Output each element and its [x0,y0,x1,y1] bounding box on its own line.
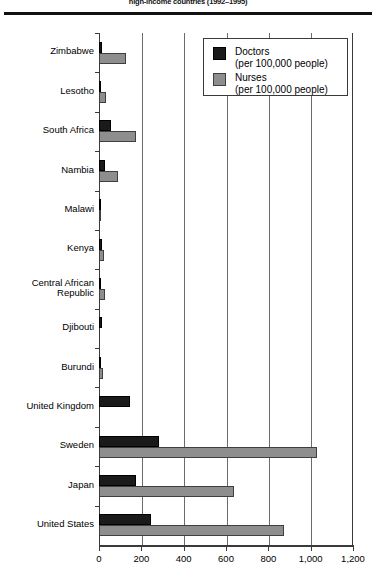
x-tick-0 [99,545,100,551]
gridline-200 [142,33,143,545]
category-label-lesotho: Lesotho [0,86,94,97]
y-tick-10 [95,427,99,428]
bar-doctors-zimbabwe [99,42,102,53]
legend: Doctors (per 100,000 people) Nurses (per… [203,38,348,96]
x-tick-label-200: 200 [133,553,149,564]
y-tick-2 [95,112,99,113]
bar-nurses-united-states [99,525,284,536]
y-tick-8 [95,348,99,349]
category-label-nambia: Nambia [0,165,94,176]
bar-doctors-nambia [99,160,105,171]
x-tick-800 [268,545,269,551]
x-tick-label-400: 400 [176,553,192,564]
y-tick-1 [95,72,99,73]
y-tick-5 [95,230,99,231]
legend-label-doctors: Doctors [235,46,269,57]
x-tick-200 [141,545,142,551]
bar-doctors-malawi [99,199,101,210]
category-label-south-africa: South Africa [0,125,94,136]
x-tick-1000 [311,545,312,551]
y-tick-6 [95,269,99,270]
bar-doctors-sweden [99,436,159,447]
legend-label-nurses: Nurses [235,72,267,83]
bar-nurses-nambia [99,171,118,182]
y-tick-0 [95,33,99,34]
gridline-1000 [311,33,312,545]
bar-nurses-sweden [99,447,317,458]
category-label-kenya: Kenya [0,243,94,254]
bar-nurses-lesotho [99,92,106,103]
category-label-zimbabwe: Zimbabwe [0,46,94,57]
plot-area [99,33,353,545]
gridline-800 [269,33,270,545]
category-label-japan: Japan [0,480,94,491]
bar-nurses-japan [99,486,234,497]
gridline-600 [227,33,228,545]
category-label-united-kingdom: United Kingdom [0,401,94,412]
x-tick-600 [226,545,227,551]
bar-nurses-central-african-republic [99,289,105,300]
x-tick-label-0: 0 [96,553,101,564]
bar-nurses-malawi [99,210,101,221]
bar-nurses-kenya [99,250,104,261]
bar-doctors-united-kingdom [99,396,130,407]
category-label-burundi: Burundi [0,362,94,373]
bar-doctors-lesotho [99,81,101,92]
legend-sublabel-doctors: (per 100,000 people) [235,58,328,69]
title-divider [4,12,372,15]
bar-doctors-south-africa [99,120,111,131]
bar-doctors-united-states [99,514,151,525]
bar-nurses-burundi [99,368,103,379]
health-workforce-bar-chart: high-income countries (1992–1995) 020040… [0,0,376,576]
gridline-400 [184,33,185,545]
y-tick-4 [95,191,99,192]
x-tick-400 [184,545,185,551]
x-tick-1200 [353,545,354,551]
y-tick-9 [95,387,99,388]
bar-doctors-japan [99,475,136,486]
bar-doctors-central-african-republic [99,278,101,289]
category-label-sweden: Sweden [0,440,94,451]
plot-right-border [352,33,354,545]
bar-doctors-burundi [99,357,101,368]
y-tick-3 [95,151,99,152]
x-tick-label-600: 600 [218,553,234,564]
y-tick-12 [95,506,99,507]
bar-doctors-kenya [99,239,102,250]
bar-doctors-djibouti [99,317,102,328]
legend-sublabel-nurses: (per 100,000 people) [235,84,328,95]
category-label-djibouti: Djibouti [0,322,94,333]
category-label-central-african-republic: Central African Republic [0,278,94,299]
y-tick-11 [95,466,99,467]
bar-nurses-south-africa [99,131,136,142]
legend-swatch-doctors-icon [213,47,226,60]
x-tick-label-1200: 1,200 [341,553,365,564]
category-label-united-states: United States [0,519,94,530]
x-tick-label-800: 800 [260,553,276,564]
legend-swatch-nurses-icon [213,73,226,86]
bar-nurses-zimbabwe [99,53,126,64]
chart-title: high-income countries (1992–1995) [0,0,376,6]
y-tick-7 [95,309,99,310]
x-tick-label-1000: 1,000 [299,553,323,564]
category-label-malawi: Malawi [0,204,94,215]
